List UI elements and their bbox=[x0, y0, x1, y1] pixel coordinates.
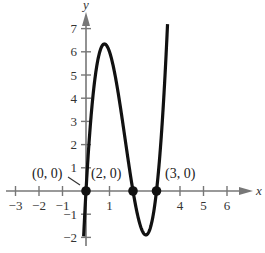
x-axis-arrow-icon bbox=[239, 187, 253, 195]
y-tick-label: 4 bbox=[71, 91, 78, 106]
cubic-function-plot: −3−2−11456−2−11234567 (0, 0)(2, 0)(3, 0)… bbox=[0, 0, 265, 253]
x-tick-label: 6 bbox=[224, 198, 231, 213]
y-tick-label: 5 bbox=[71, 68, 78, 83]
x-tick-label: 4 bbox=[177, 198, 184, 213]
chart-container: −3−2−11456−2−11234567 (0, 0)(2, 0)(3, 0)… bbox=[0, 0, 265, 253]
leader-line bbox=[68, 177, 80, 185]
function-curve bbox=[84, 24, 168, 236]
zero-point-marker bbox=[128, 186, 138, 196]
x-tick-label: 5 bbox=[200, 198, 207, 213]
y-tick-label: −1 bbox=[63, 207, 77, 222]
y-axis-label: y bbox=[81, 0, 89, 12]
zero-point-marker bbox=[152, 186, 162, 196]
y-axis-arrow-icon bbox=[82, 12, 90, 26]
y-tick-label: 2 bbox=[71, 137, 78, 152]
y-tick-label: 1 bbox=[71, 160, 78, 175]
y-tick-label: 7 bbox=[71, 21, 78, 36]
point-label-2-0: (2, 0) bbox=[91, 166, 122, 182]
x-axis-label: x bbox=[255, 183, 262, 198]
y-tick-label: 6 bbox=[71, 44, 78, 59]
x-tick-label: 1 bbox=[106, 198, 113, 213]
zero-point-marker bbox=[81, 186, 91, 196]
axis-labels: (0, 0)(2, 0)(3, 0)xy bbox=[32, 0, 262, 198]
cubic-curve bbox=[84, 24, 168, 236]
y-tick-label: −2 bbox=[63, 230, 77, 245]
y-tick-label: 3 bbox=[71, 114, 78, 129]
axis-ticks: −3−2−11456−2−11234567 bbox=[9, 21, 231, 245]
x-tick-label: −2 bbox=[32, 198, 46, 213]
point-label-3-0: (3, 0) bbox=[165, 166, 196, 182]
x-tick-label: −3 bbox=[9, 198, 23, 213]
point-label-0-0: (0, 0) bbox=[32, 166, 63, 182]
